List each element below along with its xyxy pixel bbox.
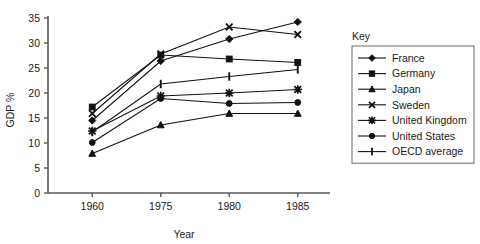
legend-item-united-kingdom: United Kingdom bbox=[358, 114, 467, 126]
chart-tick-labels: 051015202530351960197519801985 bbox=[28, 12, 309, 212]
data-point-star bbox=[294, 85, 302, 93]
legend-item-sweden: Sweden bbox=[358, 99, 430, 111]
legend-title: Key bbox=[352, 30, 371, 42]
data-point-square bbox=[295, 60, 301, 66]
legend-item-united-states: United States bbox=[358, 130, 455, 142]
legend-item-oecd-average: OECD average bbox=[358, 145, 463, 157]
data-point-circle bbox=[295, 100, 301, 106]
legend-item-label: Japan bbox=[392, 83, 421, 95]
legend-item-france: France bbox=[358, 52, 425, 64]
legend-item-label: Germany bbox=[392, 67, 436, 79]
legend-item-japan: Japan bbox=[358, 83, 421, 95]
data-point-diamond bbox=[226, 35, 233, 42]
y-tick-label: 25 bbox=[28, 62, 40, 74]
series-united-states bbox=[89, 96, 300, 146]
data-point-circle bbox=[369, 133, 374, 138]
legend-item-label: OECD average bbox=[392, 145, 463, 157]
data-point-star bbox=[368, 117, 376, 125]
x-tick-label: 1975 bbox=[149, 200, 173, 212]
data-point-square bbox=[369, 71, 374, 76]
chart-legend: KeyFranceGermanyJapanSwedenUnited Kingdo… bbox=[352, 30, 474, 163]
data-point-square bbox=[89, 104, 95, 110]
legend-item-label: France bbox=[392, 52, 425, 64]
y-tick-label: 20 bbox=[28, 87, 40, 99]
data-point-square bbox=[226, 56, 232, 62]
legend-item-label: Sweden bbox=[392, 99, 430, 111]
legend-item-label: United Kingdom bbox=[392, 114, 467, 126]
y-axis-title: GDP % bbox=[4, 93, 16, 128]
y-tick-label: 15 bbox=[28, 112, 40, 124]
y-tick-label: 30 bbox=[28, 37, 40, 49]
data-point-circle bbox=[226, 101, 232, 107]
data-point-circle bbox=[89, 140, 95, 146]
series-france bbox=[89, 18, 302, 124]
gdp-line-chart: 051015202530351960197519801985 GDP % Yea… bbox=[0, 0, 480, 244]
x-tick-label: 1980 bbox=[218, 200, 242, 212]
x-tick-label: 1985 bbox=[286, 200, 310, 212]
series-line bbox=[92, 55, 298, 107]
y-tick-label: 35 bbox=[28, 12, 40, 24]
data-point-cross bbox=[89, 110, 96, 117]
series-line bbox=[92, 22, 298, 121]
chart-series bbox=[88, 18, 302, 156]
x-tick-label: 1960 bbox=[81, 200, 105, 212]
series-line bbox=[92, 99, 298, 143]
chart-canvas: 051015202530351960197519801985 GDP % Yea… bbox=[0, 0, 480, 244]
legend-item-label: United States bbox=[392, 130, 455, 142]
data-point-circle bbox=[158, 96, 164, 102]
data-point-diamond bbox=[294, 18, 301, 25]
data-point-star bbox=[225, 89, 233, 97]
y-tick-label: 5 bbox=[34, 162, 40, 174]
series-united-kingdom bbox=[88, 85, 302, 135]
legend-item-germany: Germany bbox=[358, 67, 436, 79]
data-point-triangle bbox=[89, 150, 96, 156]
y-tick-label: 10 bbox=[28, 137, 40, 149]
series-line bbox=[92, 114, 298, 154]
y-tick-label: 0 bbox=[34, 187, 40, 199]
data-point-diamond bbox=[369, 55, 376, 62]
x-axis-title: Year bbox=[173, 228, 195, 240]
